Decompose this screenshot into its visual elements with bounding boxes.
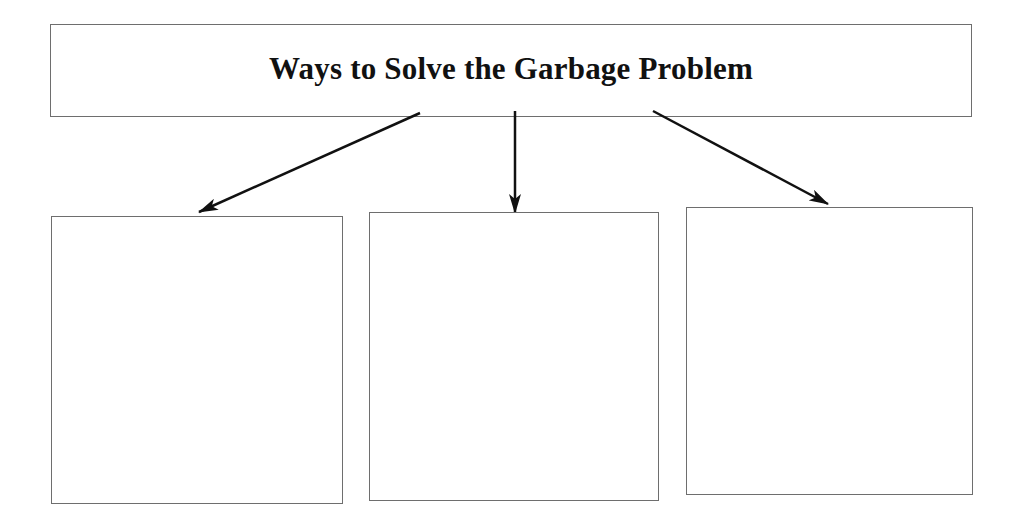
solution-box-3[interactable]: [686, 207, 973, 495]
solution-box-2[interactable]: [369, 212, 659, 501]
arrow-right: [653, 111, 828, 204]
solution-box-1[interactable]: [51, 216, 343, 504]
arrow-left: [199, 113, 420, 212]
